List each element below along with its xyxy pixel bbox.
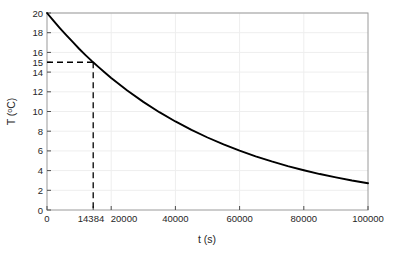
ytick-label-12: 12	[32, 86, 43, 97]
temperature-decay-chart: 20 18 16 15 14 12 10 8 6 4 2 0 0 14384 2…	[0, 0, 398, 255]
y-axis-title-suffix: C)	[5, 98, 17, 109]
ytick-label-10: 10	[32, 106, 43, 117]
xtick-label-20000: 20000	[111, 213, 137, 224]
xtick-label-14384: 14384	[78, 213, 104, 224]
y-axis-title-prefix: T (	[5, 112, 17, 125]
chart-background	[0, 0, 398, 255]
x-axis-title: t (s)	[198, 233, 216, 245]
xtick-label-80000: 80000	[291, 213, 317, 224]
ytick-label-4: 4	[38, 165, 43, 176]
figure-container: 20 18 16 15 14 12 10 8 6 4 2 0 0 14384 2…	[0, 0, 398, 255]
ytick-label-2: 2	[38, 185, 43, 196]
ytick-label-20: 20	[32, 8, 43, 19]
ytick-label-8: 8	[38, 126, 43, 137]
ytick-label-0: 0	[38, 205, 43, 216]
xtick-label-100000: 100000	[352, 213, 384, 224]
xtick-label-0: 0	[44, 213, 49, 224]
ytick-label-18: 18	[32, 27, 43, 38]
ytick-label-6: 6	[38, 145, 43, 156]
xtick-label-60000: 60000	[226, 213, 252, 224]
xtick-label-40000: 40000	[162, 213, 188, 224]
ytick-label-14: 14	[32, 67, 43, 78]
